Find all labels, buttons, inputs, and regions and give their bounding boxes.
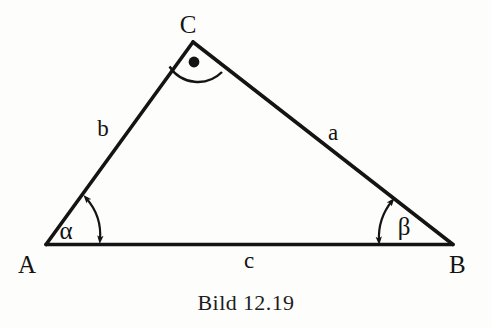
vertex-label-a: A <box>18 251 36 278</box>
angle-label-alpha: α <box>59 217 72 244</box>
angle-label-beta: β <box>398 213 411 240</box>
side-label-a: a <box>328 120 338 145</box>
vertex-label-c: C <box>180 11 197 38</box>
side-a-line <box>193 42 453 245</box>
side-label-b: b <box>97 116 109 141</box>
triangle-sides <box>46 42 453 245</box>
angle-alpha-arrow-path <box>86 198 100 240</box>
right-angle-dot-icon <box>189 57 200 68</box>
right-angle-arc-icon <box>170 67 223 82</box>
triangle-diagram: A B C a b c α β Bild 12.19 <box>0 0 492 328</box>
side-label-c: c <box>244 248 254 273</box>
figure-caption: Bild 12.19 <box>198 290 295 315</box>
angle-alpha-arc <box>86 198 100 240</box>
side-b-line <box>46 42 193 245</box>
vertex-label-b: B <box>449 251 466 278</box>
angle-beta-arc <box>379 201 392 241</box>
figure-container: A B C a b c α β Bild 12.19 <box>0 0 492 328</box>
angle-beta-arrow-path <box>379 201 392 241</box>
